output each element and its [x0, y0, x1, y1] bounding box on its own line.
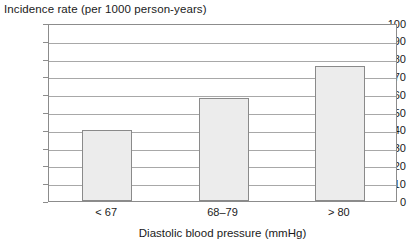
- plot-area: [48, 24, 397, 202]
- bar-chart-figure: Incidence rate (per 1000 person-years) 0…: [0, 0, 415, 248]
- bar-series: [49, 25, 396, 201]
- bar: [315, 66, 365, 201]
- x-axis-tick-label: < 67: [48, 206, 164, 219]
- x-axis-tick-label: 68–79: [164, 206, 280, 219]
- y-axis-tick-mark: [43, 202, 48, 203]
- x-axis-tick-label: > 80: [281, 206, 397, 219]
- x-axis-label: Diastolic blood pressure (mmHg): [48, 226, 397, 240]
- bar: [82, 130, 132, 201]
- chart-title: Incidence rate (per 1000 person-years): [4, 2, 207, 16]
- y-axis-tick-label: 0: [400, 197, 406, 208]
- bar: [199, 98, 249, 201]
